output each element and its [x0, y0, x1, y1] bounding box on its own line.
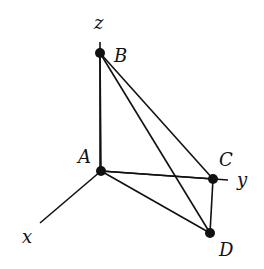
tetrahedron-diagram: z y x B A C D: [0, 0, 264, 269]
axis-x: [40, 171, 101, 223]
point-label-B: B: [114, 47, 127, 65]
point-D: [205, 228, 215, 238]
edge-CD: [210, 179, 213, 233]
edge-BD: [100, 53, 210, 233]
edge-AD: [101, 171, 210, 233]
edge-AC: [101, 171, 213, 179]
axis-label-y: y: [237, 171, 247, 189]
point-A: [96, 166, 106, 176]
diagram-canvas: [0, 0, 264, 269]
edge-AB: [100, 53, 101, 171]
point-label-D: D: [219, 241, 233, 259]
edge-BC: [100, 53, 213, 179]
axis-label-x: x: [22, 228, 32, 246]
point-label-C: C: [219, 151, 233, 169]
axis-label-z: z: [94, 14, 103, 32]
point-B: [95, 48, 105, 58]
point-C: [208, 174, 218, 184]
point-label-A: A: [78, 148, 91, 166]
